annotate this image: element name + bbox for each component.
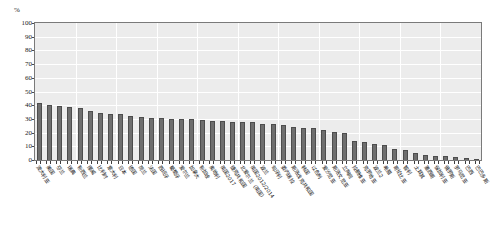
x-axis-tick-label: 德国 [126,165,136,176]
bar [352,141,357,160]
x-axis-tick-label: 美国 [45,165,55,176]
y-axis-tick-label: 60 [10,74,32,81]
x-axis-label-slot: 北爱尔兰（英国） [240,164,245,226]
x-axis-tick-label: 瑞典 [65,165,75,176]
bar [230,122,235,160]
x-axis-label-slot: 罗马尼亚 [454,164,459,226]
x-axis-label-slot: 俄罗斯 [444,164,449,226]
bar [179,119,184,160]
bar [57,106,62,160]
bar-series [35,23,481,160]
y-axis-tick-label: 80 [10,47,32,54]
y-axis-tick-label: 20 [10,129,32,136]
plot-area [34,22,482,161]
y-axis-tick-label: 90 [10,33,32,40]
x-axis-label-slot: 奥地利 [209,164,214,226]
x-axis-tick-label: 智利 [402,165,412,176]
x-axis-label-slot: 立陶宛 [342,164,347,226]
y-axis: 0102030405060708090100 [6,22,32,161]
bar [281,125,286,160]
x-axis-label-slot: 美国 [46,164,51,226]
bar [433,156,438,160]
x-axis-label-slot: 新加坡 [199,164,204,226]
x-axis-label-slot: 荷兰 [138,164,143,226]
bar [474,159,479,160]
bar [413,153,418,160]
x-axis-tick-label: 巴巴多斯 [473,165,489,185]
x-axis-label-slot: 日本 [118,164,123,226]
x-axis-label-slot: 法国 [148,164,153,226]
x-axis-label-slot: 加拿大 [189,164,194,226]
x-axis-tick-label: 波兰 [259,165,269,176]
bar [382,145,387,160]
bar [159,118,164,160]
y-axis-tick-label: 100 [10,20,32,27]
bar [311,128,316,160]
bar [342,133,347,160]
x-axis-label-slot: 挪威 [87,164,92,226]
y-axis-tick-label: 30 [10,115,32,122]
x-axis-label-slot: 土耳其 [414,164,419,226]
bar [453,157,458,160]
x-axis-tick-label: 挪威 [85,165,95,176]
bar [210,121,215,160]
x-axis-label-slot: 哥伦比亚 [393,164,398,226]
x-axis-label-slot: 韩国 [301,164,306,226]
x-axis-label-slot: 委内瑞拉 [281,164,286,226]
x-axis-label-slot: 以色列 [311,164,316,226]
x-axis-label-slot: 斯洛伐克共和国 [291,164,296,226]
bar [37,103,42,160]
x-axis-label-slot: 捷克共和国 [230,164,235,226]
bar [98,113,103,160]
x-axis-label-slot: 芬兰 [56,164,61,226]
y-axis-tick-label: 40 [10,102,32,109]
bar [464,158,469,160]
bar [291,127,296,160]
x-axis-tick-label: 巴西 [463,165,473,176]
bar [220,121,225,160]
x-axis-label-slot: 爱尔兰 [179,164,184,226]
x-axis-label-slot: 巴西 [465,164,470,226]
bar [149,118,154,160]
x-axis-label-slot: 瑞典 [67,164,72,226]
y-axis-tick-label: 10 [10,143,32,150]
x-axis-label-slot: 克罗地亚 [363,164,368,226]
bar [78,108,83,160]
y-axis-tick-label: 0 [10,157,32,164]
y-axis-tick-label: 70 [10,61,32,68]
x-axis-label-slot: 爱沙尼亚 [322,164,327,226]
x-axis-label-slot: 德国 [128,164,133,226]
bar [200,120,205,160]
bar [271,124,276,160]
x-axis-labels: 澳大利亚美国芬兰瑞典新西兰挪威比利时意大利日本德国荷兰法国西班牙葡萄牙爱尔兰加拿… [34,164,482,226]
bar [332,132,337,160]
x-axis-tick-label: 法国 [147,165,157,176]
x-axis-label-slot: 葡萄牙 [169,164,174,226]
y-axis-tick-label: 50 [10,88,32,95]
bar [240,122,245,160]
x-axis-label-slot: 澳大利亚 [36,164,41,226]
x-axis-label-slot: 比利时 [97,164,102,226]
bar [423,155,428,160]
x-axis-tick-label: 芬兰 [55,165,65,176]
x-axis-label-slot: 波兰 [260,164,265,226]
x-axis-tick-label: 韩国 [300,165,310,176]
x-axis-label-slot: 西班牙 [158,164,163,226]
x-axis-tick-label: 荷兰 [136,165,146,176]
bar [118,114,123,160]
bar [392,149,397,160]
bar [128,116,133,160]
x-axis-label-slot: 保加利亚 [434,164,439,226]
bar [67,107,72,160]
x-axis-label-slot: 英国2017 [220,164,225,226]
bar [88,111,93,160]
x-axis-label-slot: 智利 [403,164,408,226]
x-axis-label-slot: 斯洛文尼亚 [332,164,337,226]
bar [108,114,113,160]
bar [443,156,448,160]
x-axis-tick-label: 希腊 [381,165,391,176]
bar [189,119,194,160]
bar [169,119,174,160]
x-axis-label-slot: 新西兰 [77,164,82,226]
